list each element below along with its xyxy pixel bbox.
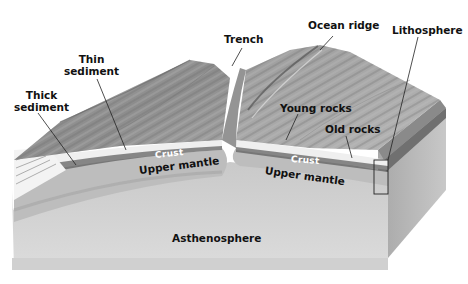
label-young-rocks: Young rocks: [280, 102, 352, 114]
label-thin-sediment: Thin sediment: [64, 53, 119, 77]
label-thick-line2: sediment: [14, 101, 69, 113]
diagram-canvas: Thick sediment Thin sediment Trench Ocea…: [0, 0, 468, 284]
label-thick-sediment: Thick sediment: [14, 89, 69, 113]
label-crust-right: Crust: [291, 154, 320, 166]
label-trench: Trench: [224, 33, 263, 45]
label-old-rocks: Old rocks: [325, 123, 381, 135]
label-asthenosphere: Asthenosphere: [172, 232, 261, 244]
label-thin-line1: Thin: [64, 53, 119, 65]
label-thin-line2: sediment: [64, 65, 119, 77]
label-lithosphere: Lithosphere: [392, 24, 463, 36]
label-thick-line1: Thick: [14, 89, 69, 101]
label-ocean-ridge: Ocean ridge: [308, 19, 379, 31]
